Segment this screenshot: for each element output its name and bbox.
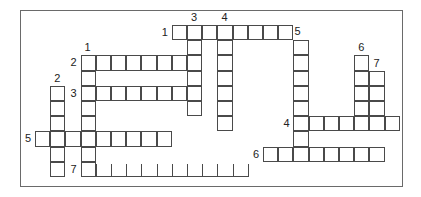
crossword-cell[interactable]: [293, 147, 308, 162]
crossword-cell[interactable]: [293, 101, 308, 116]
crossword-cell-divider: [172, 164, 173, 177]
crossword-cell[interactable]: [354, 101, 369, 116]
crossword-cell[interactable]: [187, 40, 202, 55]
crossword-cell[interactable]: [293, 71, 308, 86]
crossword-cell[interactable]: [187, 55, 202, 70]
crossword-cell-divider: [111, 164, 112, 177]
crossword-cell-divider: [96, 164, 97, 177]
crossword-cell[interactable]: [126, 86, 141, 101]
crossword-cell[interactable]: [217, 25, 232, 40]
crossword-cell[interactable]: [187, 101, 202, 116]
crossword-cell[interactable]: [385, 116, 400, 131]
crossword-cell[interactable]: [278, 147, 293, 162]
crossword-cell[interactable]: [369, 71, 384, 86]
crossword-cell[interactable]: [50, 86, 65, 101]
crossword-cell[interactable]: [111, 55, 126, 70]
crossword-cell[interactable]: [217, 101, 232, 116]
crossword-cell[interactable]: [141, 131, 156, 146]
crossword-cell[interactable]: [81, 162, 96, 177]
crossword-cell[interactable]: [339, 116, 354, 131]
crossword-cell-divider: [233, 164, 234, 177]
crossword-cell[interactable]: [293, 40, 308, 55]
crossword-cell[interactable]: [50, 162, 65, 177]
crossword-cell[interactable]: [369, 116, 384, 131]
crossword-cell[interactable]: [278, 25, 293, 40]
crossword-cell[interactable]: [81, 116, 96, 131]
crossword-cell[interactable]: [217, 55, 232, 70]
crossword-cell[interactable]: [354, 55, 369, 70]
crossword-cell[interactable]: [172, 55, 187, 70]
crossword-cell[interactable]: [81, 147, 96, 162]
crossword-cell[interactable]: [233, 25, 248, 40]
crossword-cell[interactable]: [369, 101, 384, 116]
crossword-cell[interactable]: [263, 25, 278, 40]
crossword-cell-divider: [157, 164, 158, 177]
crossword-cell[interactable]: [217, 116, 232, 131]
crossword-cell[interactable]: [217, 40, 232, 55]
crossword-cell[interactable]: [81, 71, 96, 86]
crossword-cell[interactable]: [50, 116, 65, 131]
crossword-cell[interactable]: [111, 86, 126, 101]
crossword-cell[interactable]: [157, 131, 172, 146]
crossword-cell[interactable]: [293, 55, 308, 70]
crossword-cell[interactable]: [293, 86, 308, 101]
crossword-cell[interactable]: [248, 25, 263, 40]
crossword-cell[interactable]: [217, 71, 232, 86]
clue-number-3-down: 3: [191, 12, 197, 23]
crossword-cell[interactable]: [50, 131, 65, 146]
crossword-cell-divider: [187, 164, 188, 177]
crossword-cell[interactable]: [96, 131, 111, 146]
crossword-cell[interactable]: [172, 86, 187, 101]
crossword-cell[interactable]: [81, 86, 96, 101]
crossword-cell[interactable]: [324, 147, 339, 162]
crossword-cell-divider: [141, 164, 142, 177]
crossword-cell[interactable]: [309, 147, 324, 162]
crossword-cell[interactable]: [263, 147, 278, 162]
crossword-cell[interactable]: [187, 71, 202, 86]
clue-number-2-down: 2: [54, 73, 60, 84]
crossword-cell[interactable]: [81, 55, 96, 70]
crossword-cell[interactable]: [354, 116, 369, 131]
crossword-cell[interactable]: [354, 86, 369, 101]
crossword-cell[interactable]: [157, 55, 172, 70]
crossword-cell[interactable]: [81, 101, 96, 116]
crossword-cell[interactable]: [126, 131, 141, 146]
clue-number-4-across: 4: [283, 118, 289, 129]
crossword-cell[interactable]: [141, 55, 156, 70]
crossword-cell[interactable]: [111, 131, 126, 146]
crossword-cell[interactable]: [293, 116, 308, 131]
crossword-cell[interactable]: [354, 71, 369, 86]
crossword-cell[interactable]: [126, 55, 141, 70]
crossword-cell[interactable]: [65, 131, 80, 146]
crossword-cell[interactable]: [81, 131, 96, 146]
clue-number-5-down: 5: [294, 26, 300, 37]
crossword-cell[interactable]: [187, 25, 202, 40]
clue-number-5-across: 5: [25, 133, 31, 144]
crossword-cell[interactable]: [369, 147, 384, 162]
crossword-cell[interactable]: [309, 116, 324, 131]
clue-number-7-down: 7: [373, 58, 379, 69]
crossword-cell[interactable]: [141, 86, 156, 101]
clue-number-6-down: 6: [358, 42, 364, 53]
crossword-cell[interactable]: [202, 25, 217, 40]
crossword-cell[interactable]: [339, 147, 354, 162]
crossword-cell[interactable]: [354, 147, 369, 162]
crossword-cell[interactable]: [324, 116, 339, 131]
clue-number-2-across: 2: [71, 57, 77, 68]
clue-number-3-across: 3: [71, 88, 77, 99]
crossword-row-baseline: [81, 176, 248, 177]
crossword-cell[interactable]: [157, 86, 172, 101]
crossword-cell[interactable]: [35, 131, 50, 146]
crossword-cell[interactable]: [217, 86, 232, 101]
crossword-cell[interactable]: [172, 25, 187, 40]
crossword-cell[interactable]: [293, 131, 308, 146]
crossword-cell[interactable]: [96, 55, 111, 70]
crossword-cell[interactable]: [50, 101, 65, 116]
crossword-cell[interactable]: [369, 86, 384, 101]
crossword-cell[interactable]: [50, 147, 65, 162]
clue-number-1-down: 1: [85, 42, 91, 53]
crossword-cell[interactable]: [187, 86, 202, 101]
crossword-cell[interactable]: [96, 86, 111, 101]
clue-number-6-across: 6: [253, 149, 259, 160]
crossword-cell-divider: [248, 164, 249, 177]
